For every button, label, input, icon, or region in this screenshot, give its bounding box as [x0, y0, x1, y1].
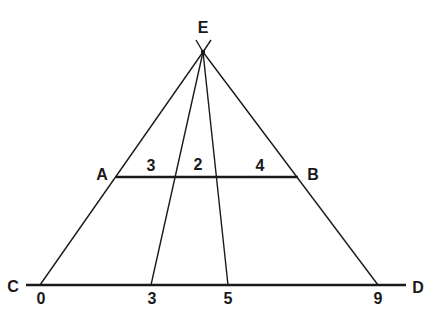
ray-to-5 [203, 52, 228, 285]
apex-point-e [201, 50, 205, 54]
segment-length-label: 3 [147, 157, 156, 174]
label-e: E [198, 19, 209, 36]
rays-from-apex [40, 52, 378, 285]
segment-length-label: 4 [256, 157, 265, 174]
label-d: D [412, 279, 424, 296]
scale-label: 5 [224, 290, 233, 307]
scale-label: 9 [374, 290, 383, 307]
base-scale-labels: 0 3 5 9 [37, 290, 383, 307]
label-c: C [7, 278, 19, 295]
ray-to-9 [203, 52, 378, 285]
scale-label: 0 [37, 290, 46, 307]
label-b: B [307, 166, 319, 183]
segment-length-label: 2 [194, 156, 203, 173]
label-a: A [96, 166, 108, 183]
proportional-segments-diagram: E A B C D 3 2 4 0 3 5 9 [0, 0, 443, 320]
ray-to-0 [40, 52, 203, 285]
upper-segment-lengths: 3 2 4 [147, 156, 265, 174]
scale-label: 3 [148, 290, 157, 307]
